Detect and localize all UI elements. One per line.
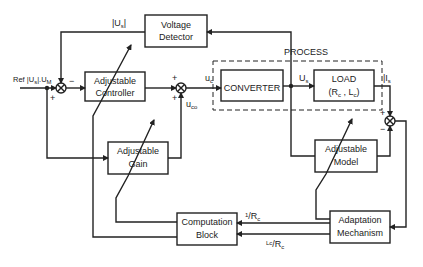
- adjustable-model-label-1: Adjustable: [325, 144, 367, 154]
- voltage-detector-label-1: Voltage: [161, 20, 191, 30]
- load-label-1: LOAD: [332, 74, 357, 84]
- reference-to-gain-line: [47, 88, 108, 158]
- uco-label: uco: [186, 99, 198, 110]
- summing-junction-1: [56, 83, 66, 93]
- reference-label: Ref |Us|.UM: [13, 75, 52, 85]
- adaptation-mechanism-label-1: Adaptation: [338, 215, 381, 225]
- converter-label: CONVERTER: [224, 83, 281, 93]
- summing-junction-2: [176, 83, 186, 93]
- us-label: Us: [299, 73, 309, 84]
- error-to-adaptation-line: [390, 121, 406, 227]
- adjustable-gain-label-1: Adjustable: [117, 146, 159, 156]
- adjustable-controller-label-2: Controller: [95, 88, 134, 98]
- adaptation-to-model-tuning: [316, 119, 352, 219]
- block-diagram: Voltage Detector Adjustable Controller C…: [0, 0, 423, 267]
- process-label: PROCESS: [284, 47, 328, 57]
- adjustable-gain-label-2: Gain: [128, 159, 147, 169]
- lc-rc-label: Lc/Rc: [266, 239, 284, 250]
- computation-block-label-2: Block: [196, 230, 219, 240]
- inv-rc-label: 1/Rc: [245, 211, 260, 222]
- summing-junction-3: [385, 116, 395, 126]
- sum3-plus-sign: +: [380, 108, 385, 118]
- adaptation-mechanism-label-2: Mechanism: [337, 228, 383, 238]
- sum3-minus-sign: −: [380, 124, 385, 134]
- sum2-plus-top-sign: +: [172, 73, 177, 83]
- is-label: |Is: [383, 73, 391, 84]
- adjustable-model-label-2: Model: [334, 157, 359, 167]
- sum1-minus-sign: −: [69, 76, 74, 86]
- sum1-plus-sign: +: [50, 93, 55, 103]
- us-abs-label: |Us|: [112, 18, 126, 29]
- sum2-plus-bottom-sign: +: [172, 93, 177, 103]
- adjustable-controller-label-1: Adjustable: [94, 76, 136, 86]
- load-label-2: (Rc , Lc): [328, 87, 359, 98]
- us-to-model-line: [291, 86, 315, 156]
- computation-to-controller-tuning: [93, 45, 177, 237]
- uc-label: uc: [205, 73, 213, 84]
- voltage-detector-label-2: Detector: [159, 32, 193, 42]
- us-to-detector-line: [207, 32, 291, 86]
- computation-block-label-1: Computation: [181, 217, 232, 227]
